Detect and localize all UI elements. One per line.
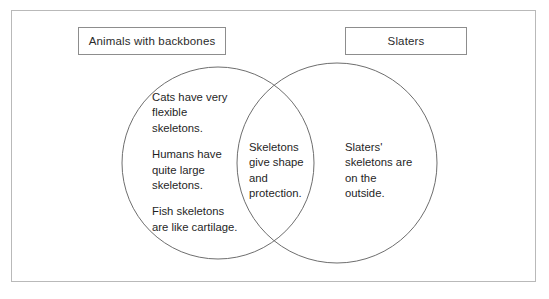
left-only-item: Humans have quite large skeletons. bbox=[152, 147, 238, 193]
label-box-animals-with-backbones: Animals with backbones bbox=[78, 27, 226, 55]
venn-diagram-canvas: Animals with backbones Slaters Cats have… bbox=[0, 0, 549, 299]
label-text-right: Slaters bbox=[388, 35, 425, 47]
intersection-region-text: Skeletons give shape and protection. bbox=[249, 140, 311, 202]
intersection-item: Skeletons give shape and protection. bbox=[249, 140, 311, 202]
label-box-slaters: Slaters bbox=[345, 27, 467, 55]
left-only-item: Fish skeletons are like cartilage. bbox=[152, 204, 238, 235]
label-text-left: Animals with backbones bbox=[89, 35, 216, 47]
right-only-region-text: Slaters' skeletons are on the outside. bbox=[345, 140, 417, 202]
left-only-region-text: Cats have very flexible skeletons. Human… bbox=[152, 90, 238, 235]
left-only-item: Cats have very flexible skeletons. bbox=[152, 90, 238, 136]
right-only-item: Slaters' skeletons are on the outside. bbox=[345, 140, 417, 202]
